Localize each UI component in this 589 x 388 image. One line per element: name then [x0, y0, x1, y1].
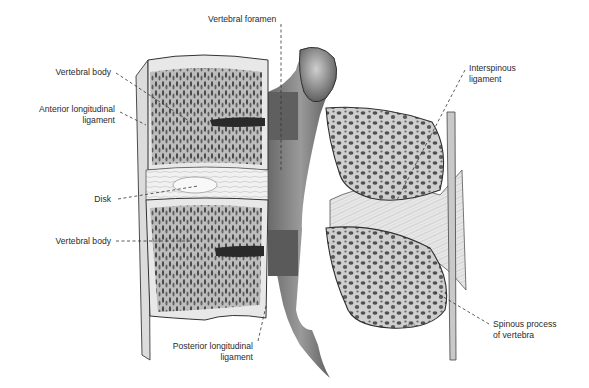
label-interspinous-ligament: Interspinous ligament — [469, 63, 516, 84]
vertebral-body-lower-shape — [146, 198, 268, 320]
label-disk: Disk — [94, 194, 111, 205]
label-vertebral-foramen: Vertebral foramen — [208, 14, 276, 25]
vertebral-arch — [268, 47, 337, 378]
supraspinous-ligament-shape — [447, 112, 456, 360]
label-posterior-longitudinal-ligament: Posterior longitudinal ligament — [173, 341, 253, 362]
spinous-process-upper — [326, 107, 444, 200]
label-vertebral-body-lower: Vertebral body — [56, 236, 111, 247]
label-spinous-process: Spinous process of vertebra — [493, 319, 557, 340]
anatomy-figure: M.G. Vertebral foramen Vertebral body An… — [0, 0, 589, 388]
label-vertebral-body-upper: Vertebral body — [56, 67, 111, 78]
vertebral-body-upper-shape — [148, 55, 268, 170]
label-anterior-longitudinal-ligament: Anterior longitudinal ligament — [39, 104, 115, 125]
artist-signature: M.G. — [405, 321, 417, 329]
